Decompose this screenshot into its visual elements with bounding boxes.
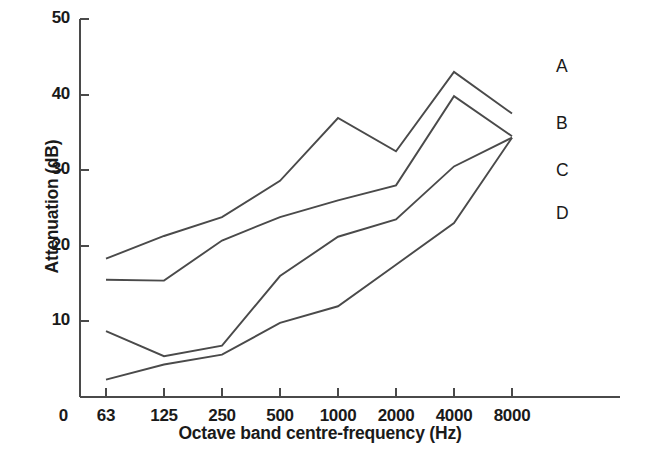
series-line-d [106, 138, 512, 380]
x-tick-label: 125 [150, 406, 177, 426]
tick-marks [80, 19, 512, 397]
series-label-c: C [556, 160, 569, 181]
series-label-d: D [556, 203, 569, 224]
x-tick-label: 1000 [320, 406, 357, 426]
series-line-c [106, 138, 512, 356]
series-paths [106, 72, 512, 380]
attenuation-line-chart: Attenuation (dB) Octave band centre-freq… [0, 0, 647, 458]
y-tick-label: 40 [26, 84, 70, 104]
axis-lines [80, 19, 620, 397]
y-tick-label: 10 [26, 310, 70, 330]
x-tick-label: 250 [208, 406, 235, 426]
y-tick-label: 50 [26, 8, 70, 28]
x-tick-label: 8000 [494, 406, 531, 426]
series-label-b: B [556, 113, 568, 134]
y-tick-label: 0 [24, 406, 68, 426]
series-line-b [106, 96, 512, 280]
x-tick-label: 500 [266, 406, 293, 426]
x-tick-label: 2000 [378, 406, 415, 426]
x-tick-label: 4000 [436, 406, 473, 426]
y-tick-label: 30 [26, 159, 70, 179]
series-label-a: A [556, 56, 568, 77]
plot-area [0, 0, 647, 458]
y-tick-label: 20 [26, 235, 70, 255]
x-tick-label: 63 [97, 406, 115, 426]
